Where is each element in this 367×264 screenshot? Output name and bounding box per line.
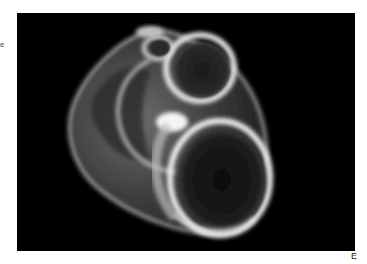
- cropped-caption-fragment: e: [0, 40, 8, 49]
- figure-panel-e: [17, 13, 355, 251]
- shell-micrograph-image: [17, 13, 355, 251]
- panel-label: E: [351, 251, 357, 261]
